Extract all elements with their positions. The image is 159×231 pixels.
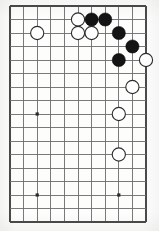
black-stone-top-a[interactable] <box>85 13 98 26</box>
white-stone-top-a[interactable] <box>71 13 84 26</box>
white-stone-left-upper[interactable] <box>31 26 44 39</box>
go-board-diagram <box>0 0 159 231</box>
white-stone-mid-a[interactable] <box>71 26 84 39</box>
go-board-canvas[interactable] <box>0 0 159 231</box>
white-stone-right-a[interactable] <box>139 53 152 66</box>
white-stone-right-c[interactable] <box>112 107 125 120</box>
black-stone-right-a[interactable] <box>112 26 125 39</box>
white-stone-right-d[interactable] <box>112 148 125 161</box>
black-stone-right-c[interactable] <box>112 53 125 66</box>
star-point-center-bottom <box>117 193 120 196</box>
white-stone-right-b[interactable] <box>126 80 139 93</box>
white-stone-mid-b[interactable] <box>85 26 98 39</box>
black-stone-right-b[interactable] <box>126 40 139 53</box>
black-stone-top-b[interactable] <box>99 13 112 26</box>
star-point-left-middle <box>36 112 39 115</box>
star-point-left-bottom <box>36 193 39 196</box>
